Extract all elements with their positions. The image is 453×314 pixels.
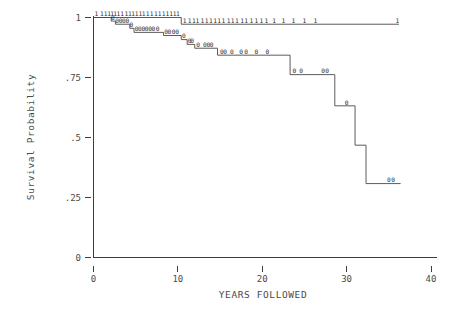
censoring-mark: 1 — [176, 10, 180, 17]
censoring-mark: 0 — [244, 48, 248, 55]
censoring-mark: 0 — [391, 176, 395, 183]
censoring-mark: 0 — [196, 41, 200, 48]
y-tick-label: .25 — [65, 193, 81, 203]
x-tick-label: 30 — [341, 274, 352, 284]
censoring-mark: 1 — [95, 10, 99, 17]
censoring-mark: 1 — [254, 17, 258, 24]
y-tick-label: 0 — [76, 253, 81, 263]
censoring-mark: 0 — [325, 67, 329, 74]
survival-curves-group — [94, 18, 401, 184]
x-tick-label: 40 — [426, 274, 437, 284]
censoring-mark: 1 — [249, 17, 253, 24]
censoring-mark: 0 — [292, 67, 296, 74]
censoring-marks-group: 1111111111111111111111111111111111111111… — [95, 10, 400, 183]
censoring-mark: 1 — [183, 17, 187, 24]
censoring-mark: 1 — [222, 17, 226, 24]
survival-step-curve — [94, 18, 401, 184]
censoring-mark: 1 — [395, 17, 399, 24]
censoring-mark: 1 — [265, 17, 269, 24]
censoring-mark: 1 — [235, 17, 239, 24]
censoring-mark: 1 — [272, 17, 276, 24]
censoring-mark: 0 — [130, 21, 134, 28]
y-tick-label: 1 — [76, 13, 81, 23]
censoring-mark: 0 — [345, 99, 349, 106]
censoring-mark: 0 — [230, 48, 234, 55]
censoring-mark: 0 — [182, 32, 186, 39]
x-tick-label: 0 — [91, 274, 96, 284]
censoring-mark: 1 — [292, 17, 296, 24]
x-axis-ticks: 010203040 — [91, 266, 437, 284]
censoring-mark: 1 — [303, 17, 307, 24]
censoring-mark: 0 — [254, 48, 258, 55]
censoring-mark: 0 — [190, 37, 194, 44]
y-tick-label: .75 — [65, 73, 81, 83]
y-axis-title: Survival Probability — [25, 74, 36, 200]
censoring-mark: 1 — [281, 17, 285, 24]
censoring-mark: 1 — [244, 17, 248, 24]
x-tick-label: 10 — [172, 274, 183, 284]
censoring-mark: 0 — [156, 25, 160, 32]
y-axis-ticks: 0.25.5.751 — [65, 13, 91, 263]
censoring-mark: 0 — [175, 28, 179, 35]
survival-curve-figure: 0.25.5.751 010203040 1111111111111111111… — [0, 0, 453, 314]
censoring-mark: 0 — [265, 48, 269, 55]
x-tick-label: 20 — [257, 274, 268, 284]
censoring-mark: 0 — [299, 67, 303, 74]
censoring-mark: 1 — [260, 17, 264, 24]
x-axis-title: YEARS FOLLOWED — [219, 289, 307, 300]
kaplan-meier-chart: 0.25.5.751 010203040 1111111111111111111… — [0, 0, 453, 314]
y-tick-label: .5 — [70, 133, 81, 143]
censoring-mark: 1 — [195, 17, 199, 24]
censoring-mark: 0 — [239, 48, 243, 55]
censoring-mark: 1 — [314, 17, 318, 24]
censoring-mark: 0 — [210, 41, 214, 48]
censoring-mark: 0 — [223, 48, 227, 55]
